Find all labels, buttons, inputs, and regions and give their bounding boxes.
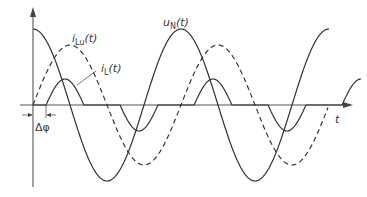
label-delta-phi: Δφ bbox=[35, 121, 50, 134]
phase-control-diagram: uN(t) iLu(t) iL(t) t Δφ bbox=[0, 0, 367, 197]
vertical-axis-arrow-icon bbox=[30, 7, 36, 17]
arrow-left-icon bbox=[46, 113, 51, 117]
label-i-L: iL(t) bbox=[101, 62, 121, 77]
time-axis-arrow-icon bbox=[343, 102, 353, 108]
delta-phi-dimension: Δφ bbox=[22, 105, 56, 134]
label-u-N: uN(t) bbox=[163, 16, 189, 31]
label-t: t bbox=[335, 113, 340, 126]
vertical-axis bbox=[30, 7, 36, 187]
label-i-Lu: iLu(t) bbox=[72, 32, 97, 47]
i-L-label-leader bbox=[77, 71, 96, 85]
arrow-right-icon bbox=[28, 113, 33, 117]
